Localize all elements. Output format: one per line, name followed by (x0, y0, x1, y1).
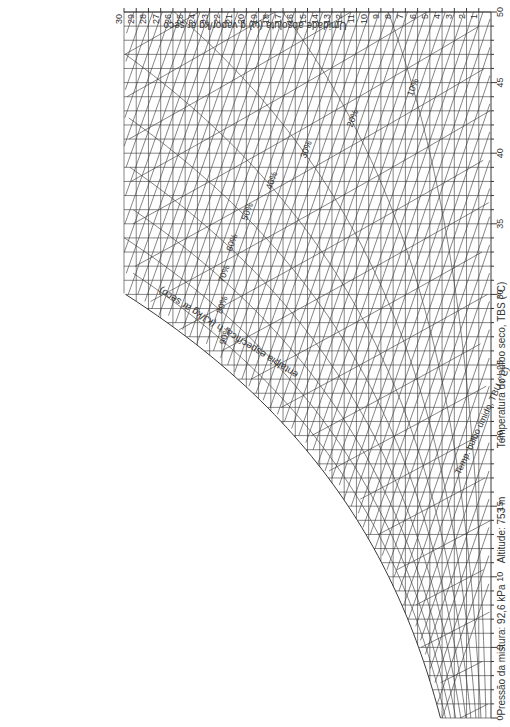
y-tick-label: 8 (383, 14, 393, 19)
rh-curve (133, 273, 445, 718)
rh-label: 40% (264, 170, 280, 190)
volume-line (421, 612, 489, 647)
y-tick-label: 30 (114, 14, 124, 24)
rh-label: 70% (216, 263, 232, 283)
psychrometric-chart: 0510152025303540455012345678910111213141… (0, 0, 510, 727)
y-tick-label: 2 (457, 14, 467, 19)
chart-canvas: 0510152025303540455012345678910111213141… (0, 0, 510, 727)
volume-line (251, 252, 482, 379)
volume-line (441, 662, 482, 683)
pressure-note: Pressão da mistura: 92,6 kPa (496, 584, 507, 716)
x-tick-label: 10 (495, 572, 505, 582)
rh-label: 60% (224, 232, 240, 252)
y-tick-label: 11 (346, 14, 356, 23)
altitude-note: Altitude: 753 m (496, 497, 507, 564)
x-tick-label: 45 (495, 78, 505, 88)
x-tick-label: 35 (495, 219, 505, 229)
y-tick-label: 1 (469, 14, 479, 19)
y-tick-label: 27 (151, 14, 161, 24)
y-axis-title: Umidade absoluta (ω) g vapor/kg ar seco (163, 20, 346, 31)
volume-line (150, 111, 489, 302)
rh-label: 20% (345, 108, 361, 128)
y-tick-label: 9 (371, 14, 381, 19)
rh-curve (129, 118, 466, 718)
x-tick-label: 40 (495, 148, 505, 158)
x-tick-label: 50 (495, 7, 505, 17)
